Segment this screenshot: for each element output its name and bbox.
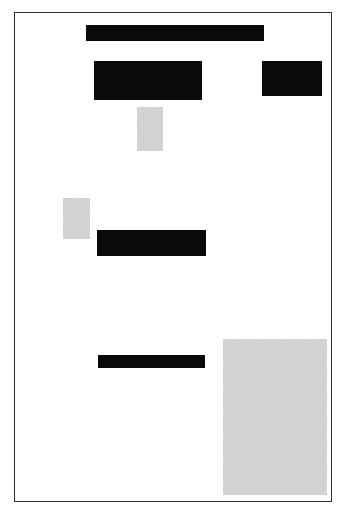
redaction-middle xyxy=(97,230,206,256)
redaction-block-right xyxy=(262,61,322,96)
redaction-title xyxy=(86,25,264,41)
redaction-lower xyxy=(98,355,205,368)
image-placeholder-2 xyxy=(63,198,90,239)
image-placeholder-3 xyxy=(223,339,327,495)
image-placeholder-1 xyxy=(137,107,163,151)
redaction-block-left xyxy=(94,61,202,100)
